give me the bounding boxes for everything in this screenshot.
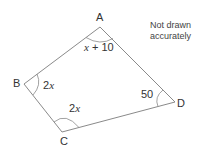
note-line-2: accurately [150,31,191,42]
angle-A-rest: + 10 [89,41,114,53]
angle-label-B: 2x [43,80,54,91]
angle-C-variable: x [75,102,80,114]
angle-B-variable: x [49,79,54,91]
note-line-1: Not drawn [150,20,191,31]
vertex-label-A: A [96,12,103,23]
vertex-label-B: B [13,78,20,89]
angle-label-A: x + 10 [84,42,114,53]
not-drawn-accurately-note: Not drawn accurately [150,20,191,42]
angle-label-C: 2x [69,103,80,114]
vertex-label-C: C [60,136,68,147]
angle-arc-D [157,90,163,107]
angle-label-D: 50 [141,89,153,100]
vertex-label-D: D [177,98,185,109]
